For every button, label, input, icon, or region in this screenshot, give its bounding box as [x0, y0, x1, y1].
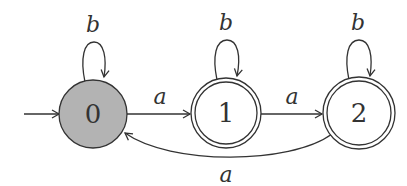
- transition-1-2: a: [261, 84, 322, 114]
- state-0: 0: [59, 80, 127, 148]
- transition-label-1-2: a: [285, 84, 298, 109]
- transition-label-1-1: b: [219, 10, 233, 35]
- transition-0-0: b: [83, 12, 105, 82]
- automaton-diagram: b a b a b a 0 1 2: [0, 0, 407, 186]
- state-label-1: 1: [218, 98, 235, 128]
- state-1: 1: [191, 78, 261, 148]
- transition-2-2: b: [347, 10, 371, 80]
- self-loop-arrow-1: [215, 40, 239, 80]
- transition-1-1: b: [215, 10, 239, 80]
- transition-label-0-1: a: [153, 84, 166, 109]
- state-label-2: 2: [351, 98, 368, 128]
- self-loop-arrow-0: [83, 42, 105, 82]
- state-2: 2: [323, 77, 395, 149]
- transition-label-2-2: b: [351, 10, 365, 35]
- transition-label-0-0: b: [86, 12, 100, 37]
- transition-label-2-0: a: [219, 162, 232, 186]
- state-label-0: 0: [85, 99, 102, 129]
- self-loop-arrow-2: [347, 40, 371, 80]
- transition-0-1: a: [127, 84, 190, 114]
